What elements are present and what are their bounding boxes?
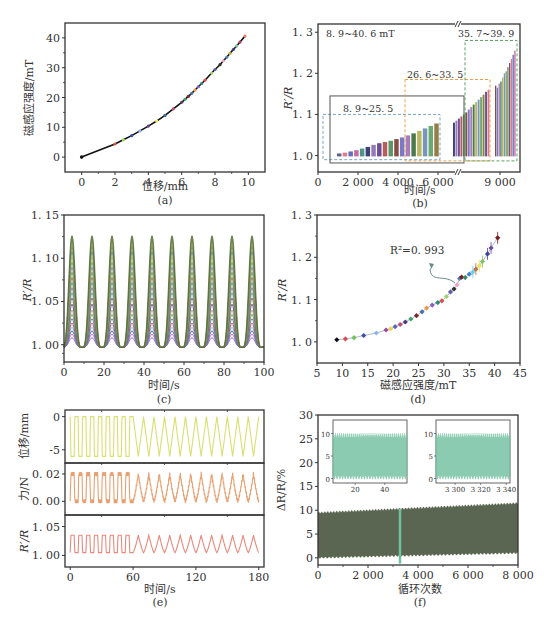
x-axis-label-f: 循环次数 bbox=[398, 582, 442, 596]
x-axis-label-b: 时间/s bbox=[404, 184, 436, 197]
data-point bbox=[197, 85, 200, 88]
chart-panel-e: 0-50. 020. 001. 051. 00060120180 时间/s 位移… bbox=[17, 410, 269, 609]
bar bbox=[343, 153, 347, 157]
data-point bbox=[361, 333, 366, 338]
y-tick-label: 1. 15 bbox=[31, 209, 59, 222]
inset-y-tick: 5 bbox=[326, 453, 330, 461]
data-point bbox=[163, 114, 166, 117]
bar bbox=[485, 92, 487, 157]
figure: 0102030400246810 位移/mm 磁感应强度/mT (a) 8. 9… bbox=[0, 0, 546, 624]
y-tick-label: 30 bbox=[46, 62, 60, 75]
x-tick-label: 15 bbox=[361, 367, 375, 380]
x-tick-label: 120 bbox=[185, 571, 206, 584]
y-tick-label: 10 bbox=[299, 504, 313, 517]
bar bbox=[383, 142, 387, 156]
data-point bbox=[147, 125, 150, 128]
x-tick-label: 10 bbox=[241, 176, 255, 189]
inset-y-tick: 0 bbox=[429, 476, 433, 484]
bar bbox=[453, 123, 455, 157]
signal-line bbox=[70, 535, 259, 552]
subplot-ylabel-e-1: 力/N bbox=[18, 476, 31, 501]
data-point bbox=[403, 319, 408, 324]
bar bbox=[513, 55, 514, 157]
y-tick-label: 0. 02 bbox=[32, 468, 60, 481]
inset-x-tick: 3 300 bbox=[445, 486, 465, 494]
fit-line bbox=[82, 36, 245, 157]
x-tick-label: 100 bbox=[254, 366, 275, 379]
y-axis-label-d: R′/R bbox=[276, 279, 289, 303]
chart-panel-a: 0102030400246810 位移/mm 磁感应强度/mT (a) bbox=[22, 23, 265, 207]
data-point bbox=[210, 71, 213, 74]
data-point bbox=[243, 35, 246, 38]
y-tick-label: 10 bbox=[46, 121, 60, 134]
inset-y-tick: 0 bbox=[326, 476, 330, 484]
x-tick-label: 40 bbox=[488, 367, 502, 380]
x-tick-label: 35 bbox=[462, 367, 476, 380]
data-point bbox=[238, 40, 241, 43]
x-tick-label: 20 bbox=[97, 366, 111, 379]
chart-panel-b: 8. 9~40. 6 mT8. 9~25. 526. 6~33. 535. 7~… bbox=[282, 21, 520, 210]
bar bbox=[495, 86, 496, 157]
inset-y-tick: 10 bbox=[321, 431, 330, 439]
y-tick-label: 20 bbox=[299, 457, 313, 470]
x-tick-label: 0 bbox=[61, 366, 68, 379]
x-tick-label: 9 000 bbox=[484, 176, 516, 189]
bar bbox=[360, 149, 364, 157]
plot-area-d: R²=0. 9931. 01. 11. 21. 3510152025303540… bbox=[291, 209, 527, 380]
bar bbox=[497, 88, 498, 157]
bar bbox=[511, 59, 512, 156]
y-axis-label-a: 磁感应强度/mT bbox=[22, 59, 36, 136]
bar bbox=[371, 145, 375, 157]
chart-panel-d: R²=0. 9931. 01. 11. 21. 3510152025303540… bbox=[276, 209, 527, 406]
x-tick-label: 6 000 bbox=[452, 569, 484, 582]
data-point bbox=[388, 326, 393, 331]
bar bbox=[460, 117, 462, 157]
y-tick-label: 1. 2 bbox=[291, 251, 312, 264]
x-axis-label-e: 时间/s bbox=[144, 583, 176, 596]
panel-label-a: (a) bbox=[157, 194, 172, 207]
subplot-frame bbox=[65, 463, 264, 515]
bar bbox=[389, 141, 393, 157]
bar bbox=[434, 123, 438, 156]
data-point bbox=[232, 48, 235, 51]
panel-label-b: (b) bbox=[412, 197, 428, 210]
bar bbox=[429, 126, 433, 156]
plot-area-f: 05101520253002 0004 0006 0008 0000510204… bbox=[299, 409, 534, 582]
bar bbox=[500, 82, 501, 157]
data-point bbox=[130, 134, 133, 137]
data-point bbox=[80, 155, 84, 159]
data-point bbox=[113, 142, 116, 145]
inset-x-tick: 3 340 bbox=[496, 486, 516, 494]
bar bbox=[473, 105, 475, 157]
y-tick-label: 25 bbox=[299, 433, 313, 446]
bar bbox=[478, 100, 480, 157]
y-tick-label: 1. 1 bbox=[291, 294, 312, 307]
arrow-icon bbox=[430, 265, 455, 283]
x-tick-label: 2 000 bbox=[352, 569, 384, 582]
bar bbox=[400, 137, 404, 156]
inset-y-tick: 5 bbox=[429, 453, 433, 461]
cycle-band bbox=[318, 502, 518, 559]
y-tick-label: 1. 05 bbox=[31, 295, 59, 308]
bar bbox=[465, 112, 467, 156]
data-point bbox=[485, 251, 490, 256]
data-point bbox=[228, 52, 231, 55]
y-tick-label: 20 bbox=[46, 92, 60, 105]
y-tick-label: 0 bbox=[53, 411, 60, 424]
bar bbox=[509, 63, 510, 156]
range-label-all: 8. 9~40. 6 mT bbox=[326, 28, 395, 39]
bar bbox=[506, 71, 507, 156]
y-tick-label: 1. 05 bbox=[32, 521, 60, 534]
x-tick-label: 8 000 bbox=[502, 569, 534, 582]
y-axis-label-f: ΔR/R/% bbox=[275, 469, 288, 511]
y-tick-label: 5 bbox=[306, 528, 313, 541]
inset-signal bbox=[436, 433, 510, 479]
bar bbox=[499, 84, 500, 157]
data-point bbox=[200, 82, 203, 85]
x-tick-label: 0 bbox=[315, 569, 322, 582]
bar bbox=[377, 143, 381, 156]
data-point bbox=[187, 95, 190, 98]
bar bbox=[366, 147, 370, 156]
bar bbox=[455, 121, 457, 157]
panel-label-d: (d) bbox=[410, 393, 426, 406]
